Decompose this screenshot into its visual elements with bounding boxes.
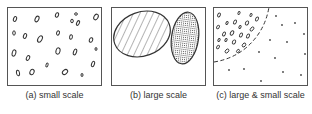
panel-a (7, 7, 102, 86)
panel-b (111, 7, 206, 86)
caption-c: (c) large & small scale (209, 90, 312, 100)
caption-a: (a) small scale (7, 90, 102, 100)
large-small-scale-diagram (213, 7, 308, 86)
panel-c (213, 7, 308, 86)
large-scale-diagram (111, 7, 206, 86)
caption-b: (b) large scale (111, 90, 206, 100)
small-scale-diagram (7, 7, 102, 86)
